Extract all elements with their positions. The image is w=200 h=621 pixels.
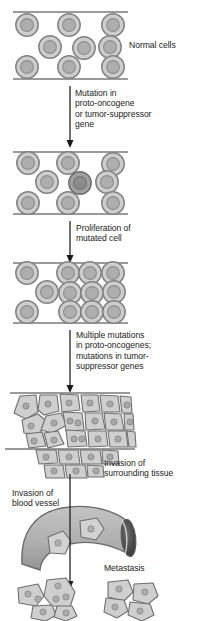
label-mutation: Mutation in proto-oncogene or tumor-supp… [75, 88, 151, 130]
label-invasion-vessel: Invasion of blood vessel [12, 488, 59, 509]
label-metastasis: Metastasis [104, 563, 145, 573]
label-multiple-mutations: Multiple mutations in proto-oncogenes; m… [76, 330, 151, 372]
label-proliferation: Proliferation of mutated cell [76, 223, 131, 244]
stage-intravasation [22, 506, 138, 570]
label-invasion-tissue: Invasion of surrounding tissue [104, 458, 173, 479]
metastasis-cluster-right [104, 580, 158, 621]
label-normal-cells: Normal cells [129, 40, 176, 50]
blood-vessel-wall [22, 506, 131, 570]
stage-metastasis [18, 578, 158, 621]
cell-group-proliferation [16, 262, 125, 323]
stage-normal-epithelium [13, 12, 128, 79]
stage-proliferation [13, 262, 128, 323]
cell-group-normal [16, 14, 124, 78]
cancer-progression-diagram: Normal cells Mutation in proto-oncogene … [0, 0, 200, 621]
stage-single-mutation [13, 152, 128, 214]
cell-group-mutation [17, 152, 124, 214]
